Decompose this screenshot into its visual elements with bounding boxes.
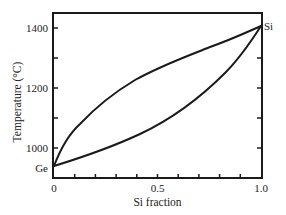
si-label: Si xyxy=(264,20,273,32)
liquidus-curve xyxy=(54,26,261,166)
y-tick-1400: 1400 xyxy=(26,22,49,34)
phase-diagram-chart: 1400 1200 1000 Ge Si 0 0.5 1.0 Si fracti… xyxy=(0,0,286,215)
x-tick-1-0: 1.0 xyxy=(254,182,268,194)
y-tick-1200: 1200 xyxy=(26,82,49,94)
x-tick-0: 0 xyxy=(51,182,57,194)
ge-label: Ge xyxy=(35,162,48,174)
y-tick-1000: 1000 xyxy=(26,142,49,154)
solidus-curve xyxy=(54,26,261,166)
x-tick-0-5: 0.5 xyxy=(151,182,165,194)
y-axis-title: Temperature (°C) xyxy=(11,61,24,142)
plot-frame xyxy=(53,13,262,178)
x-axis-title: Si fraction xyxy=(133,196,181,208)
